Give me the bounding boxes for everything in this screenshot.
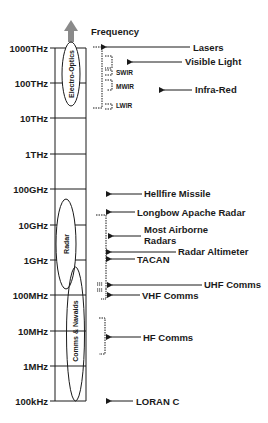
ir-label-swir: SWIR bbox=[116, 69, 133, 76]
tick-label: 100GHz bbox=[13, 184, 48, 195]
app-label-uhf-comms: UHF Comms bbox=[204, 279, 261, 290]
axis-title: Frequency bbox=[91, 26, 140, 37]
ir-label-lwir: LWIR bbox=[116, 102, 133, 109]
frequency-spectrum-diagram: Frequency 1000THz 100THz 10THz 1THz 100G… bbox=[0, 0, 268, 423]
tick-label: 100MHz bbox=[13, 290, 49, 301]
band-label-electro-optics: Electro-Optics bbox=[68, 50, 76, 98]
uhf-vhf-brackets bbox=[97, 283, 106, 299]
tick-label: 10MHz bbox=[18, 326, 48, 337]
tick-label: 100kHz bbox=[15, 396, 48, 407]
app-label-longbow-apache-radar: Longbow Apache Radar bbox=[137, 207, 246, 218]
app-label-loran-c: LORAN C bbox=[136, 396, 179, 407]
app-label-tacan: TACAN bbox=[137, 254, 170, 265]
tick-label: 100THz bbox=[15, 78, 49, 89]
app-label-visible-light: Visible Light bbox=[185, 56, 242, 67]
app-label-most-airborne-radars-1: Most Airborne bbox=[144, 224, 208, 235]
app-label-radar-altimeter: Radar Altimeter bbox=[178, 246, 249, 257]
ir-label-mwir: MWIR bbox=[116, 83, 134, 90]
hf-bracket bbox=[99, 318, 105, 354]
tick-label: 10THz bbox=[20, 113, 48, 124]
lasers-bracket bbox=[93, 47, 102, 108]
app-label-infra-red: Infra-Red bbox=[195, 84, 237, 95]
frequency-up-arrow-icon bbox=[64, 20, 78, 42]
tick-label: 1GHz bbox=[24, 255, 49, 266]
app-label-hf-comms: HF Comms bbox=[143, 332, 193, 343]
ir-sub-brackets bbox=[105, 56, 112, 109]
band-label-comms-navaids: Comms & Navaids bbox=[72, 300, 79, 362]
tick-label: 1MHz bbox=[23, 361, 48, 372]
app-label-hellfire-missile: Hellfire Missile bbox=[144, 188, 211, 199]
radar-bracket bbox=[96, 215, 106, 289]
tick-label: 1000THz bbox=[9, 43, 48, 54]
tick-label: 1THz bbox=[25, 149, 48, 160]
app-label-most-airborne-radars-2: Radars bbox=[144, 235, 176, 246]
tick-label: 10GHz bbox=[18, 220, 48, 231]
app-label-vhf-comms: VHF Comms bbox=[142, 290, 198, 301]
app-label-lasers: Lasers bbox=[193, 42, 224, 53]
band-label-radar: Radar bbox=[63, 234, 70, 254]
